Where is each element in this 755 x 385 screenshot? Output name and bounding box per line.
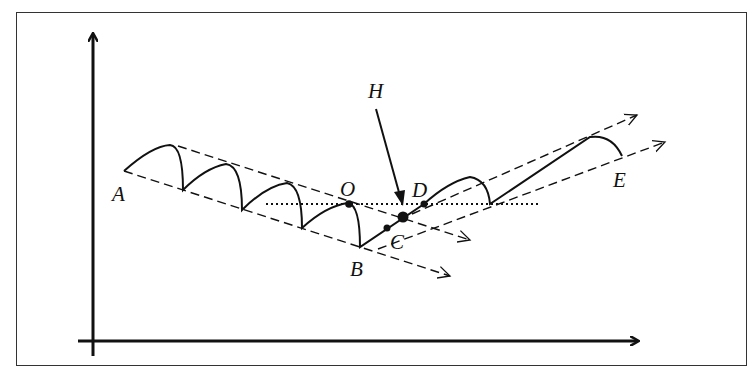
intersection-point [398,212,409,223]
label-d: D [411,178,427,202]
label-e: E [612,168,626,192]
label-c: C [390,230,405,254]
label-o: O [340,177,355,201]
trend-channel-diagram: A B C D E O H [0,0,755,385]
label-h: H [367,79,385,103]
descending-lower-line [124,171,450,276]
label-b: B [350,257,363,281]
h-pointer-arrow [376,109,405,206]
point-o [345,200,353,208]
label-a: A [110,182,125,206]
